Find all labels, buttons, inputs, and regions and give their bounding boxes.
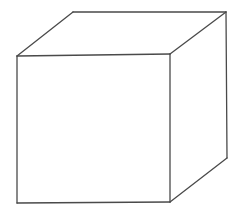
- cube-diagram: [0, 0, 244, 210]
- front-top-edge: [17, 54, 170, 56]
- cube-edges: [17, 12, 227, 203]
- back-right-edge: [226, 12, 227, 158]
- bottom-right-depth-edge: [170, 158, 227, 202]
- top-right-depth-edge: [170, 12, 226, 54]
- front-bottom-edge: [17, 202, 170, 203]
- top-left-depth-edge: [17, 12, 73, 56]
